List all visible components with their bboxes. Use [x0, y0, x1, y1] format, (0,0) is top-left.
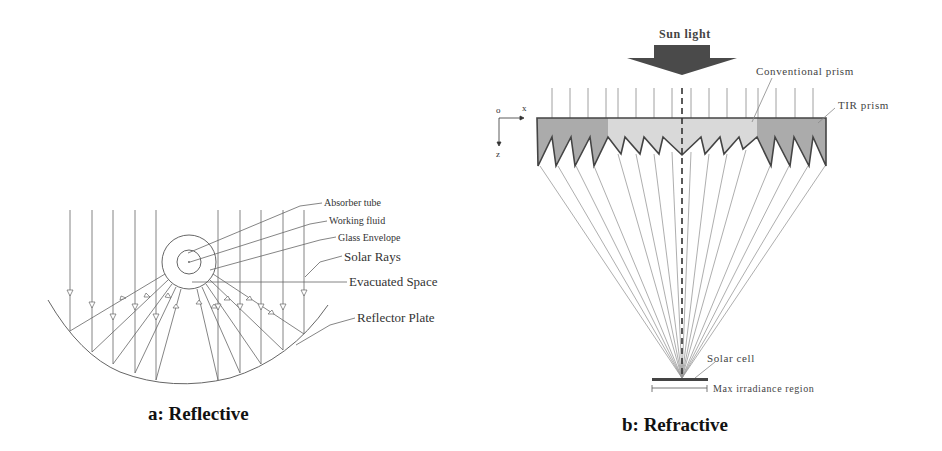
label-max-irradiance-region: Max irradiance region	[713, 383, 814, 394]
label-tir-prism: TIR prism	[838, 99, 889, 111]
label-sun-light: Sun light	[659, 27, 711, 41]
center-dot	[188, 261, 190, 263]
panel-a-reflective: Absorber tube Working fluid Glass Envelo…	[48, 197, 438, 424]
max-irradiance-dimension	[652, 385, 707, 392]
axis-z-label: z	[496, 149, 500, 159]
axis-x-label: x	[522, 103, 527, 113]
label-absorber-tube: Absorber tube	[324, 197, 381, 208]
solar-rays-left	[70, 210, 156, 380]
panel-b-refractive: Sun light o x z	[496, 27, 889, 435]
axis-origin-label: o	[496, 105, 501, 115]
label-reflector-plate: Reflector Plate	[357, 310, 435, 325]
label-glass-envelope: Glass Envelope	[338, 232, 401, 243]
caption-a: a: Reflective	[148, 403, 249, 424]
label-working-fluid: Working fluid	[329, 215, 385, 226]
label-solar-rays: Solar Rays	[344, 249, 401, 264]
caption-b: b: Refractive	[622, 414, 728, 435]
axes-indicator	[497, 116, 524, 146]
reflector-plate-curve	[48, 300, 328, 384]
solar-rays-right	[218, 210, 304, 380]
ray-arrowheads	[67, 290, 307, 320]
label-conventional-prism: Conventional prism	[756, 65, 854, 77]
solar-cell	[652, 378, 708, 381]
sun-light-arrow-icon	[627, 45, 737, 75]
label-solar-cell: Solar cell	[707, 352, 755, 364]
figure-canvas: Absorber tube Working fluid Glass Envelo…	[0, 0, 942, 451]
label-evacuated-space: Evacuated Space	[349, 274, 438, 289]
